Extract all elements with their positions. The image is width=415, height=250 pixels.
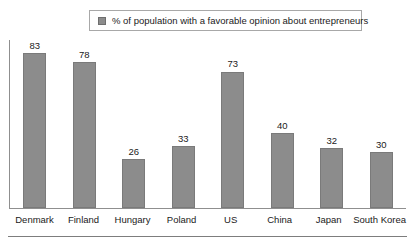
bar-rect bbox=[271, 133, 294, 208]
bar-value-label: 32 bbox=[326, 136, 337, 146]
bar-group: 26 bbox=[109, 40, 159, 208]
bar-rect bbox=[172, 146, 195, 208]
bar-series: 8378263373403230 bbox=[10, 40, 406, 208]
bar-chart: % of population with a favorable opinion… bbox=[0, 0, 415, 250]
bar-group: 33 bbox=[159, 40, 209, 208]
bar-group: 32 bbox=[307, 40, 357, 208]
bar-value-label: 78 bbox=[79, 50, 90, 60]
bar-rect bbox=[370, 152, 393, 208]
x-axis-tick-label: Hungary bbox=[108, 212, 157, 228]
bar-rect bbox=[23, 53, 46, 208]
bar-rect bbox=[122, 159, 145, 208]
x-axis-tick-label: US bbox=[206, 212, 255, 228]
bar-group: 78 bbox=[60, 40, 110, 208]
bar-value-label: 33 bbox=[178, 134, 189, 144]
x-axis-tick-label: Japan bbox=[304, 212, 353, 228]
bar-value-label: 73 bbox=[227, 59, 238, 69]
legend-label: % of population with a favorable opinion… bbox=[112, 16, 368, 26]
x-axis-tick-label: China bbox=[255, 212, 304, 228]
plot-area: 8378263373403230 bbox=[9, 40, 406, 209]
bar-value-label: 83 bbox=[29, 41, 40, 51]
bar-group: 40 bbox=[258, 40, 308, 208]
x-axis-labels: DenmarkFinlandHungaryPolandUSChinaJapanS… bbox=[10, 212, 406, 228]
bar-value-label: 40 bbox=[277, 121, 288, 131]
x-axis-tick-label: Denmark bbox=[10, 212, 59, 228]
bar-group: 30 bbox=[357, 40, 407, 208]
bar-rect bbox=[73, 62, 96, 208]
bar-group: 83 bbox=[10, 40, 60, 208]
bottom-rule bbox=[8, 236, 407, 237]
chart-legend: % of population with a favorable opinion… bbox=[89, 10, 362, 31]
bar-value-label: 26 bbox=[128, 147, 139, 157]
x-axis-tick-label: South Korea bbox=[353, 212, 406, 228]
x-axis-line bbox=[9, 208, 406, 209]
legend-swatch-icon bbox=[98, 17, 106, 25]
x-axis-tick-label: Poland bbox=[157, 212, 206, 228]
bar-rect bbox=[221, 72, 244, 208]
bar-rect bbox=[320, 148, 343, 208]
bar-value-label: 30 bbox=[376, 140, 387, 150]
x-axis-tick-label: Finland bbox=[59, 212, 108, 228]
bar-group: 73 bbox=[208, 40, 258, 208]
